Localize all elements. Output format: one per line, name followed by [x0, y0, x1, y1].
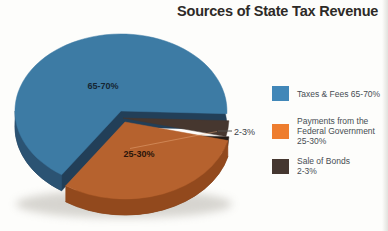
- slice-label-taxes: 65-70%: [87, 81, 118, 91]
- legend-label-line: Sale of Bonds: [297, 156, 386, 166]
- legend-label-line: 2-3%: [297, 166, 386, 176]
- legend-item: Sale of Bonds2-3%: [272, 156, 386, 176]
- legend-label-line: Taxes & Fees 65-70%: [297, 89, 386, 99]
- legend-swatch: [272, 159, 289, 174]
- legend: Taxes & Fees 65-70%Payments from theFede…: [272, 86, 386, 176]
- legend-item: Payments from theFederal Government25-30…: [272, 116, 386, 146]
- legend-swatch: [272, 86, 289, 101]
- legend-label-line: Payments from the: [297, 116, 386, 126]
- legend-swatch: [272, 124, 289, 139]
- legend-label-line: Federal Government: [297, 126, 386, 136]
- pie-slices: [15, 34, 229, 215]
- legend-label: Taxes & Fees 65-70%: [297, 89, 386, 99]
- slice-label-bonds: 2-3%: [234, 127, 255, 137]
- legend-item: Taxes & Fees 65-70%: [272, 86, 386, 101]
- legend-label: Sale of Bonds2-3%: [297, 156, 386, 176]
- chart-figure: Sources of State Tax Revenue 65-70% 25-3…: [0, 0, 388, 231]
- slice-label-federal: 25-30%: [123, 149, 154, 159]
- legend-label-line: 25-30%: [297, 136, 386, 146]
- legend-label: Payments from theFederal Government25-30…: [297, 116, 386, 146]
- page-edge-shading: [382, 0, 388, 231]
